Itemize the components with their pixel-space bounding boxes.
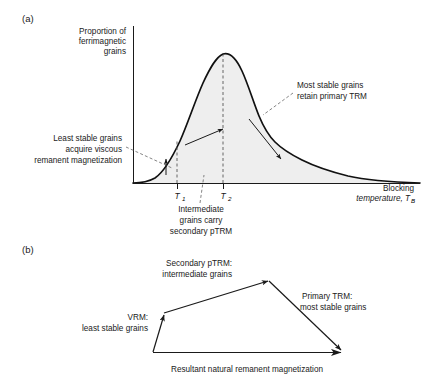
- primary-trm-label-line-2: most stable grains: [300, 303, 366, 312]
- panel-a-label: (a): [22, 13, 34, 24]
- figure-container: (a) Proportion of ferrimagnetic grains B…: [0, 0, 446, 382]
- secondary-ptrm-vector: [164, 281, 268, 313]
- anno-most-stable-line-1: Most stable grains: [297, 81, 363, 90]
- secondary-ptrm-label-line-1: Secondary pTRM:: [166, 259, 232, 268]
- x-axis-label-line-2: temperature, T: [356, 194, 411, 203]
- anno-intermediate-line-1: Intermediate: [178, 205, 224, 214]
- x-axis-label-line-1: Blocking: [383, 184, 414, 193]
- anno-least-stable-leader: [126, 147, 172, 168]
- y-axis-label-line-1: Proportion of: [79, 27, 127, 36]
- vrm-label-line-2: least stable grains: [82, 324, 148, 333]
- panel-b-label: (b): [22, 244, 34, 255]
- figure-svg: (a) Proportion of ferrimagnetic grains B…: [0, 0, 446, 382]
- anno-least-stable-line-2: acquire viscous: [66, 145, 122, 154]
- t1-label: T: [174, 191, 180, 201]
- t2-label: T: [220, 191, 226, 201]
- anno-most-stable-line-2: retain primary TRM: [297, 92, 367, 101]
- primary-trm-label-line-1: Primary TRM:: [302, 292, 352, 301]
- t1-label-subscript: 1: [182, 195, 185, 202]
- vrm-label-line-1: VRM:: [128, 313, 148, 322]
- secondary-ptrm-label-line-2: intermediate grains: [162, 270, 232, 279]
- anno-most-stable-leader: [263, 93, 293, 115]
- anno-intermediate-line-2: grains carry: [180, 216, 224, 225]
- y-axis-label-line-3: grains: [104, 47, 126, 56]
- distribution-area: [133, 54, 420, 183]
- y-axis-label-line-2: ferrimagnetic: [79, 37, 126, 46]
- anno-least-stable-line-3: remanent magnetization: [34, 156, 122, 165]
- t2-label-subscript: 2: [227, 195, 232, 202]
- anno-least-stable-line-1: Least stable grains: [53, 134, 122, 143]
- resultant-caption: Resultant natural remanent magnetization: [171, 365, 323, 374]
- x-axis-label-subscript: B: [411, 197, 415, 204]
- anno-intermediate-line-3: secondary pTRM: [170, 227, 233, 236]
- vrm-vector: [153, 315, 164, 352]
